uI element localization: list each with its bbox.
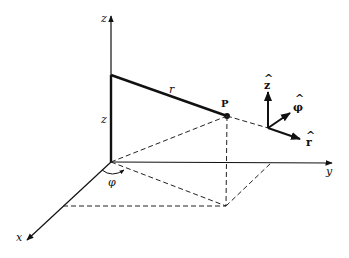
z-axis-label: z [100, 12, 107, 25]
unit-phi-label: φ [293, 101, 303, 114]
x-axis [27, 162, 111, 240]
point-p-label: P [221, 98, 229, 109]
p-extension-dashed [227, 116, 268, 128]
floor-y-parallel-dashed [226, 163, 271, 206]
unit-z-label: z [264, 79, 270, 92]
x-axis-label: x [16, 231, 23, 244]
phi-arc [102, 170, 124, 174]
unit-phi-vector [268, 113, 290, 128]
angle-phi-label: φ [108, 176, 116, 189]
unit-r-vector [268, 128, 300, 139]
radius-label: r [169, 83, 175, 96]
p-vertical-dashed [226, 116, 227, 206]
cylindrical-coordinates-diagram: z z r P φ y x ^ z ^ φ ^ r [0, 0, 349, 258]
origin-to-projection-dashed [111, 162, 226, 206]
y-axis [111, 162, 332, 163]
origin-to-p-dashed [111, 116, 227, 162]
y-axis-label: y [325, 165, 333, 178]
unit-r-label: r [306, 136, 312, 149]
height-label: z [100, 113, 107, 126]
